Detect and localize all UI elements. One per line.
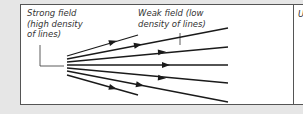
- arrowhead-icon: [134, 43, 142, 49]
- field-lines-diagram: [0, 0, 303, 114]
- arrowhead-icon: [108, 40, 117, 46]
- arrowhead-icon: [162, 62, 170, 68]
- field-lines: [67, 28, 228, 102]
- arrowhead-icon: [136, 81, 144, 87]
- arrowhead-icon: [108, 84, 117, 90]
- field-line: [67, 35, 138, 56]
- strong-field-leader: [40, 45, 64, 66]
